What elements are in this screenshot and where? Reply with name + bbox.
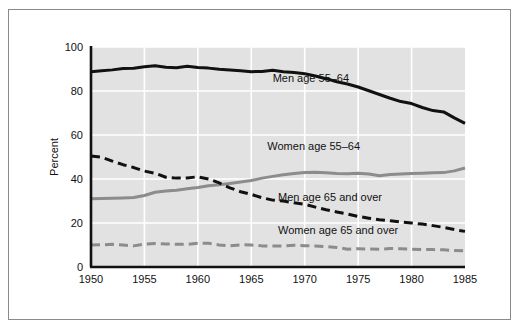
x-tick-label: 1950 xyxy=(79,273,103,285)
y-tick-label: 60 xyxy=(71,129,83,141)
series-label-women-age-65-and-over: Women age 65 and over xyxy=(278,224,399,236)
y-tick-label: 80 xyxy=(71,85,83,97)
x-tick-label: 1970 xyxy=(292,273,316,285)
x-tick-label: 1965 xyxy=(239,273,263,285)
x-tick-label: 1955 xyxy=(132,273,156,285)
x-tick-label: 1985 xyxy=(453,273,477,285)
x-tick-label: 1960 xyxy=(186,273,210,285)
line-chart: 0204060801001950195519601965197019751980… xyxy=(0,0,520,330)
series-label-women-age-55-64: Women age 55–64 xyxy=(267,140,360,152)
x-tick-label: 1975 xyxy=(346,273,370,285)
y-axis-title: Percent xyxy=(48,138,60,176)
y-tick-label: 20 xyxy=(71,217,83,229)
chart-figure: 0204060801001950195519601965197019751980… xyxy=(0,0,520,330)
series-label-men-age-65-and-over: Men age 65 and over xyxy=(278,191,382,203)
y-tick-label: 40 xyxy=(71,173,83,185)
x-tick-label: 1980 xyxy=(399,273,423,285)
series-label-men-age-55-64: Men age 55–64 xyxy=(273,72,349,84)
y-tick-label: 0 xyxy=(77,261,83,273)
y-tick-label: 100 xyxy=(65,41,83,53)
